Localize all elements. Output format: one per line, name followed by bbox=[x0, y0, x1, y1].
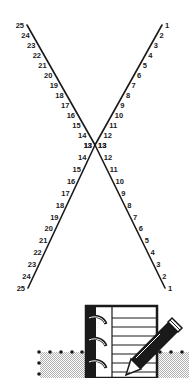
point-label: 14 bbox=[78, 153, 87, 162]
point-label: 22 bbox=[33, 248, 41, 257]
point-label: 4 bbox=[151, 248, 156, 257]
point-label: 20 bbox=[45, 224, 53, 233]
point-label: 8 bbox=[127, 201, 131, 210]
point-labels: 2524232221201918171615141312345678910111… bbox=[16, 21, 173, 293]
point-label: 9 bbox=[121, 189, 125, 198]
point-label: 21 bbox=[38, 61, 46, 70]
point-label: 18 bbox=[55, 91, 63, 100]
point-label: 25 bbox=[16, 21, 24, 30]
point-label: 15 bbox=[72, 121, 80, 130]
point-label: 21 bbox=[39, 236, 47, 245]
point-label: 1 bbox=[168, 284, 172, 293]
string-line bbox=[27, 25, 95, 145]
point-label: 6 bbox=[139, 224, 143, 233]
point-label: 16 bbox=[67, 111, 75, 120]
point-label: 5 bbox=[145, 236, 149, 245]
point-label: 9 bbox=[120, 101, 124, 110]
point-label: 12 bbox=[104, 153, 112, 162]
point-label: 13 bbox=[84, 141, 92, 150]
string-line bbox=[28, 145, 95, 288]
point-label: 19 bbox=[50, 81, 58, 90]
point-label: 5 bbox=[143, 61, 147, 70]
point-label: 1 bbox=[165, 21, 169, 30]
string-art-diagram: 2524232221201918171615141312345678910111… bbox=[0, 0, 189, 378]
point-label: 20 bbox=[44, 71, 52, 80]
point-label: 13 bbox=[98, 141, 106, 150]
point-label: 22 bbox=[33, 51, 41, 60]
point-label: 7 bbox=[132, 81, 136, 90]
string-line bbox=[95, 145, 165, 288]
point-label: 16 bbox=[67, 177, 75, 186]
point-label: 3 bbox=[156, 260, 160, 269]
point-label: 24 bbox=[21, 31, 30, 40]
notebook-icon bbox=[86, 306, 157, 378]
string-line bbox=[95, 25, 162, 145]
top-string-figure bbox=[27, 25, 162, 145]
point-label: 7 bbox=[133, 213, 137, 222]
point-label: 14 bbox=[78, 131, 87, 140]
point-label: 17 bbox=[61, 189, 69, 198]
point-label: 25 bbox=[17, 284, 25, 293]
point-label: 3 bbox=[154, 41, 158, 50]
point-label: 18 bbox=[56, 201, 64, 210]
point-label: 23 bbox=[27, 41, 35, 50]
point-label: 2 bbox=[162, 272, 166, 281]
point-label: 11 bbox=[109, 121, 117, 130]
point-label: 24 bbox=[22, 272, 31, 281]
point-label: 19 bbox=[50, 213, 58, 222]
notebook-pencil-icon bbox=[37, 306, 189, 378]
point-label: 12 bbox=[104, 131, 112, 140]
point-label: 10 bbox=[115, 111, 123, 120]
point-label: 15 bbox=[72, 165, 80, 174]
point-label: 17 bbox=[61, 101, 69, 110]
point-label: 6 bbox=[137, 71, 141, 80]
point-label: 23 bbox=[28, 260, 36, 269]
point-label: 8 bbox=[126, 91, 130, 100]
point-label: 10 bbox=[116, 177, 124, 186]
bottom-string-figure bbox=[28, 145, 165, 288]
point-label: 2 bbox=[159, 31, 163, 40]
point-label: 11 bbox=[110, 165, 118, 174]
point-label: 4 bbox=[148, 51, 153, 60]
